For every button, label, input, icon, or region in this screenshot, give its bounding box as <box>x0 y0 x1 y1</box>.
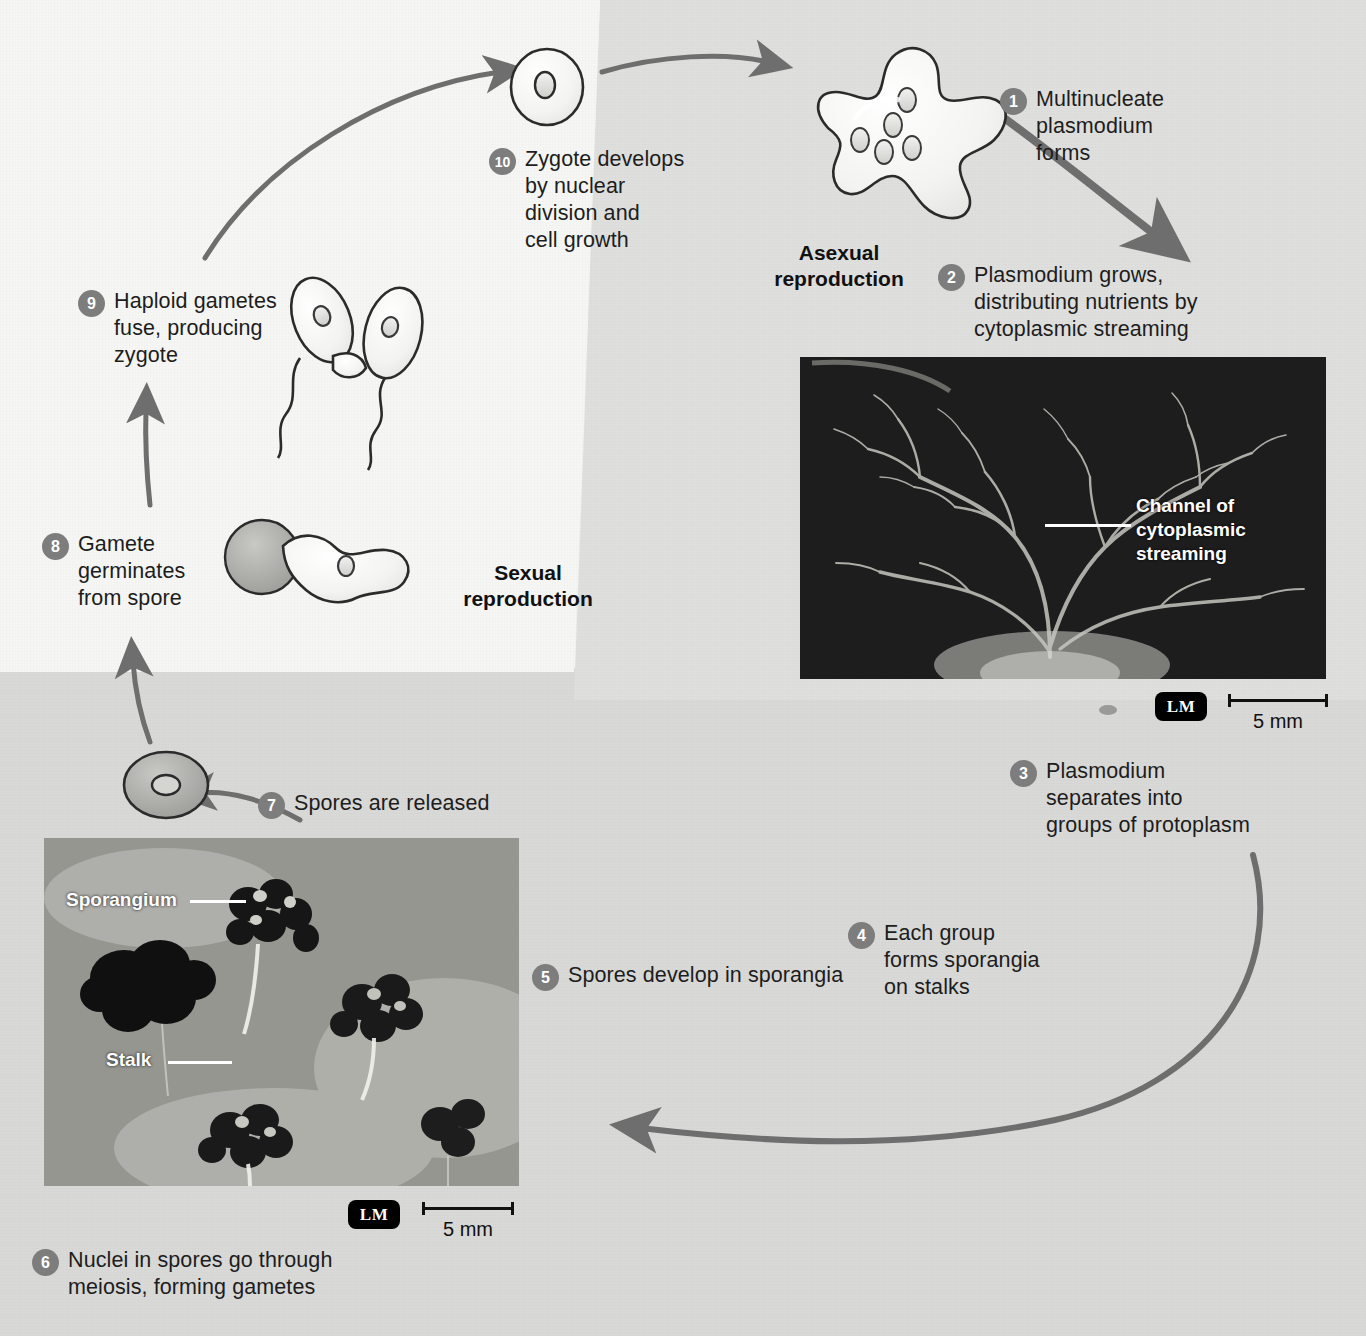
scale-bar-bottom: 5 mm <box>422 1202 514 1241</box>
section-heading-asexual: Asexual reproduction <box>744 240 934 292</box>
step-2-text: Plasmodium grows, distributing nutrients… <box>974 262 1198 343</box>
step-7: 7 Spores are released <box>258 790 490 819</box>
scale-bar-top: 5 mm <box>1228 694 1328 733</box>
step-5: 5 Spores develop in sporangia <box>532 962 843 991</box>
step-4: 4 Each group forms sporangia on stalks <box>848 920 1040 1001</box>
step-8: 8 Gamete germinates from spore <box>42 531 185 612</box>
step-1-text: Multinucleate plasmodium forms <box>1036 86 1164 167</box>
step-9: 9 Haploid gametes fuse, producing zygote <box>78 288 277 369</box>
step-8-text: Gamete germinates from spore <box>78 531 185 612</box>
scale-bar-bottom-label: 5 mm <box>422 1218 514 1241</box>
step-2-number: 2 <box>938 264 965 291</box>
step-4-number: 4 <box>848 922 875 949</box>
step-3: 3 Plasmodium separates into groups of pr… <box>1010 758 1250 839</box>
section-heading-sexual: Sexual reproduction <box>428 560 628 612</box>
lm-badge-bottom: LM <box>348 1200 400 1229</box>
micrograph-leader-line-channel <box>1045 524 1131 527</box>
micrograph-label-sporangium: Sporangium <box>66 888 177 912</box>
micrograph-label-channel: Channel of cytoplasmic streaming <box>1136 494 1246 566</box>
step-10-number: 10 <box>489 148 516 175</box>
step-10-text: Zygote develops by nuclear division and … <box>525 146 684 254</box>
micrograph-leader-line-sporangium <box>190 900 246 903</box>
step-8-number: 8 <box>42 533 69 560</box>
lm-badge-top: LM <box>1155 692 1207 721</box>
plasmodium-micrograph-content <box>800 357 1326 679</box>
micrograph-leader-line-stalk <box>168 1061 232 1064</box>
step-1-number: 1 <box>1000 88 1027 115</box>
scale-bar-top-label: 5 mm <box>1228 710 1328 733</box>
step-3-number: 3 <box>1010 760 1037 787</box>
step-6-text: Nuclei in spores go through meiosis, for… <box>68 1247 332 1301</box>
step-4-text: Each group forms sporangia on stalks <box>884 920 1040 1001</box>
step-7-number: 7 <box>258 792 285 819</box>
step-3-text: Plasmodium separates into groups of prot… <box>1046 758 1250 839</box>
step-6: 6 Nuclei in spores go through meiosis, f… <box>32 1247 332 1301</box>
step-2: 2 Plasmodium grows, distributing nutrien… <box>938 262 1198 343</box>
step-9-number: 9 <box>78 290 105 317</box>
micrograph-sporangia: Sporangium Stalk <box>44 838 519 1186</box>
figure-canvas: Channel of cytoplasmic streaming <box>0 0 1366 1336</box>
step-7-text: Spores are released <box>294 790 490 817</box>
micrograph-plasmodium: Channel of cytoplasmic streaming <box>800 357 1326 679</box>
step-6-number: 6 <box>32 1249 59 1276</box>
step-5-text: Spores develop in sporangia <box>568 962 843 989</box>
step-10: 10 Zygote develops by nuclear division a… <box>489 146 684 254</box>
step-1: 1 Multinucleate plasmodium forms <box>1000 86 1164 167</box>
step-5-number: 5 <box>532 964 559 991</box>
micrograph-label-stalk: Stalk <box>106 1048 151 1072</box>
step-9-text: Haploid gametes fuse, producing zygote <box>114 288 277 369</box>
